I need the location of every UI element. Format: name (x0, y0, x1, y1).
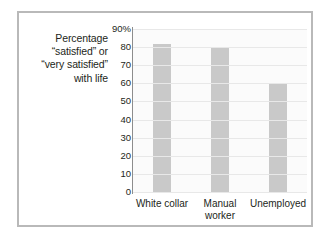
x-axis-label-unemployed: Unemployed (250, 198, 306, 210)
y-axis-title: Percentage “satisfied” or “very satisfie… (14, 32, 108, 85)
y-axis-tick-80: 80 (106, 42, 131, 52)
y-axis-line (132, 27, 133, 194)
y-axis-tick-20: 20 (106, 151, 131, 161)
y-axis-tick-10: 10 (106, 169, 131, 179)
gridline-10 (133, 174, 307, 175)
chart-plot-wrapper: 0102030405060708090% White collarManualw… (106, 24, 310, 204)
gridline-40 (133, 120, 307, 121)
x-axis-label-line: worker (204, 210, 237, 222)
gridline-70 (133, 65, 307, 66)
y-axis-title-line-1: Percentage (14, 32, 108, 45)
x-axis-label-manual-worker: Manualworker (204, 198, 237, 222)
y-axis-title-line-3: “very satisfied” (14, 58, 108, 71)
x-axis-label-line: White collar (136, 198, 188, 210)
gridline-0 (133, 192, 307, 193)
y-axis-title-line-4: with life (14, 72, 108, 85)
y-axis-tick-60: 60 (106, 79, 131, 89)
gridline-80 (133, 47, 307, 48)
y-axis-tick-50: 50 (106, 97, 131, 107)
gridline-30 (133, 138, 307, 139)
gridline-60 (133, 83, 307, 84)
y-axis-tick-labels: 0102030405060708090% (106, 24, 131, 192)
figure-root: Percentage “satisfied” or “very satisfie… (0, 0, 330, 238)
x-axis-label-line: Manual (204, 198, 237, 210)
x-axis-label-white-collar: White collar (136, 198, 188, 210)
chart-plot-area (133, 29, 307, 192)
x-axis-category-labels: White collarManualworkerUnemployed (133, 198, 307, 228)
y-axis-tick-90: 90% (106, 24, 131, 34)
gridline-90 (133, 29, 307, 30)
x-axis-label-line: Unemployed (250, 198, 306, 210)
y-axis-title-line-2: “satisfied” or (14, 45, 108, 58)
y-axis-tick-30: 30 (106, 133, 131, 143)
y-axis-tick-0: 0 (106, 187, 131, 197)
y-axis-tick-40: 40 (106, 115, 131, 125)
gridline-20 (133, 156, 307, 157)
y-axis-tick-70: 70 (106, 60, 131, 70)
bar-series (133, 29, 307, 192)
gridline-50 (133, 101, 307, 102)
